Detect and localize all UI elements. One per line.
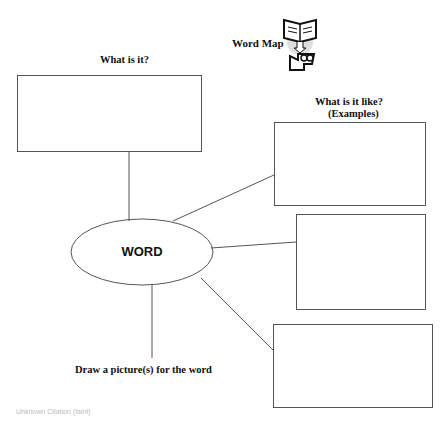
what-is-it-label: What is it? xyxy=(100,54,149,65)
draw-picture-label: Draw a picture(s) for the word xyxy=(75,364,212,375)
example-box-3[interactable] xyxy=(273,324,433,408)
example-box-1[interactable] xyxy=(274,122,426,206)
what-is-it-box[interactable] xyxy=(17,75,202,152)
example-box-2[interactable] xyxy=(296,214,426,310)
page-title: Word Map xyxy=(232,37,284,49)
book-and-character-icon xyxy=(280,12,320,72)
center-word: WORD xyxy=(100,244,184,259)
footer-citation: Unknown Citation (faint) xyxy=(16,408,91,415)
what-is-it-like-label: What is it like? xyxy=(315,96,383,107)
examples-label: (Examples) xyxy=(328,108,379,119)
